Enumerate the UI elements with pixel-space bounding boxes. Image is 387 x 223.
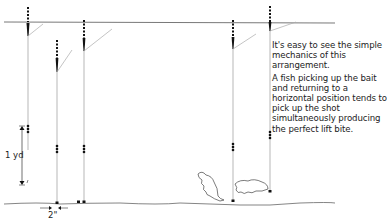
float-3 (77, 20, 112, 203)
fish-feeding-icon (198, 172, 224, 201)
caption-paragraph-1: It's easy to see the simple mechanics of… (272, 40, 387, 71)
float-2 (56, 40, 73, 204)
depth-label: 1 yd (5, 150, 24, 160)
caption-paragraph-2: A fish picking up the bait and returning… (272, 73, 387, 134)
float-1 (27, 7, 44, 150)
gap-label: 2" (48, 210, 57, 220)
lake-bed (4, 203, 335, 206)
water-surface (4, 22, 335, 23)
fish-horizontal-icon (235, 180, 268, 194)
caption: It's easy to see the simple mechanics of… (272, 40, 387, 136)
lift-method-diagram: 1 yd 2" It's easy to see the simple mech… (0, 0, 387, 223)
float-4 (232, 20, 257, 202)
